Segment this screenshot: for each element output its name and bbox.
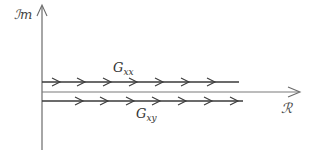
path-gxx bbox=[42, 78, 239, 86]
gxy-label: Gxy bbox=[136, 106, 157, 123]
path-gxy bbox=[42, 97, 243, 105]
complex-plane-diagram: ℐm ℛ Gxx Gxy bbox=[0, 0, 311, 157]
gxx-label: Gxx bbox=[113, 60, 134, 77]
imaginary-axis bbox=[37, 5, 47, 150]
real-axis-label: ℛ bbox=[281, 100, 293, 116]
real-axis bbox=[42, 87, 300, 97]
imaginary-axis-label: ℐm bbox=[14, 7, 32, 22]
